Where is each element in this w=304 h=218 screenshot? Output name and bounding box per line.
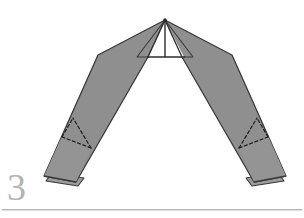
bottom-divider-rule-shadow [2, 210, 302, 211]
apex-point [163, 18, 167, 22]
figure-container: 3 [0, 0, 304, 218]
step-number-label: 3 [7, 168, 26, 206]
fold-diagram [0, 0, 304, 218]
